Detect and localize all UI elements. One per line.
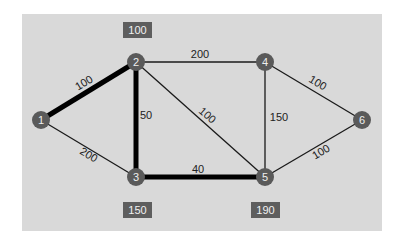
node-4-label: 4 bbox=[262, 56, 268, 68]
distance-label-node-3: 150 bbox=[123, 202, 152, 218]
weight-1-3: 200 bbox=[78, 145, 100, 165]
edge-weights: 100 200 50 200 100 40 150 100 100 bbox=[73, 48, 332, 175]
distance-label-node-5: 190 bbox=[251, 202, 280, 218]
node-1-label: 1 bbox=[38, 114, 44, 126]
node-4: 4 bbox=[256, 53, 274, 71]
weight-4-5: 150 bbox=[270, 111, 288, 123]
weight-3-5: 40 bbox=[192, 163, 204, 175]
edge-2-5 bbox=[136, 62, 265, 177]
node-6-label: 6 bbox=[359, 114, 365, 126]
node-6: 6 bbox=[353, 111, 371, 129]
node-5-label: 5 bbox=[262, 171, 268, 183]
distance-label-node-2: 100 bbox=[123, 22, 152, 38]
node-3-label: 3 bbox=[133, 171, 139, 183]
weight-2-3: 50 bbox=[140, 109, 152, 121]
graph-canvas: 100 200 50 200 100 40 150 100 100 1 2 3 … bbox=[0, 0, 399, 244]
weight-5-6: 100 bbox=[310, 142, 332, 162]
weight-2-5: 100 bbox=[197, 104, 219, 125]
node-5: 5 bbox=[256, 168, 274, 186]
node-1: 1 bbox=[32, 111, 50, 129]
edge-1-2-highlighted bbox=[41, 62, 136, 120]
node-3: 3 bbox=[127, 168, 145, 186]
node-2-label: 2 bbox=[133, 56, 139, 68]
node-2: 2 bbox=[127, 53, 145, 71]
weight-2-4: 200 bbox=[191, 48, 209, 60]
